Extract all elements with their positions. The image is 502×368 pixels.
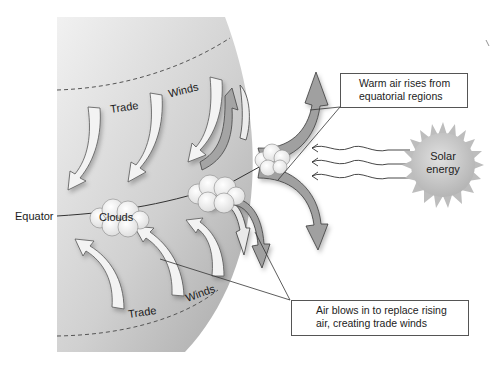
label-clouds: Clouds bbox=[99, 211, 133, 223]
label-equator: Equator bbox=[15, 210, 54, 222]
solar-radiation-arrows bbox=[312, 144, 410, 180]
globe bbox=[57, 17, 290, 352]
callout-trade-winds: Air blows in to replace rising air, crea… bbox=[291, 300, 469, 336]
sun-label: Solar energy bbox=[413, 150, 473, 176]
callout-trade-winds-line1: Air blows in to replace rising bbox=[316, 304, 468, 317]
callout-warm-air: Warm air rises from equatorial regions bbox=[340, 73, 468, 108]
sun-label-line1: Solar bbox=[413, 150, 473, 163]
callout-warm-air-line2: equatorial regions bbox=[359, 90, 467, 103]
callout-warm-air-line1: Warm air rises from bbox=[359, 77, 467, 90]
sun-label-line2: energy bbox=[413, 163, 473, 176]
trade-winds-diagram: Trade Winds Equator Clouds Trade Winds S… bbox=[0, 0, 502, 368]
callout-trade-winds-line2: air, creating trade winds bbox=[316, 317, 468, 330]
stray-mark bbox=[486, 40, 489, 46]
